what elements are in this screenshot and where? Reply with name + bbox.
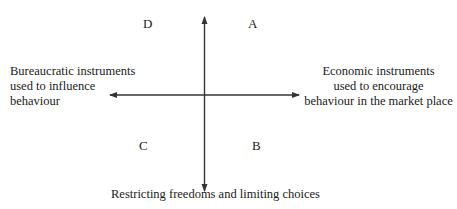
right-axis-label-line-1: Economic instruments [300,64,457,79]
left-axis-label: Bureaucratic instruments used to influen… [10,64,135,109]
right-axis-label: Economic instruments used to encourage b… [300,64,457,109]
left-axis-label-line-2: used to influence [10,79,135,94]
bottom-axis-label: Restricting freedoms and limiting choice… [111,187,320,202]
right-axis-label-line-2: used to encourage [300,79,457,94]
quadrant-label-d: D [143,17,152,31]
quadrant-label-b: B [252,139,261,153]
right-axis-label-line-3: behaviour in the market place [300,94,457,109]
quadrant-label-a: A [248,17,257,31]
quadrant-label-c: C [139,139,148,153]
left-axis-label-line-3: behaviour [10,94,135,109]
left-axis-label-line-1: Bureaucratic instruments [10,64,135,79]
